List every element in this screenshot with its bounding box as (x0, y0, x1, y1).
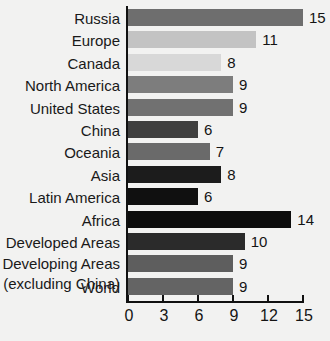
x-axis-tick (232, 295, 234, 303)
x-axis-tick (162, 295, 164, 303)
bar-value-label: 6 (204, 121, 212, 138)
x-axis-tick-label: 9 (219, 307, 249, 325)
x-axis-tick (302, 295, 304, 303)
bar (128, 9, 303, 26)
plot-area: 1511899678614109903691215 (0, 0, 330, 341)
bar (128, 255, 233, 272)
bar-value-label: 15 (309, 9, 326, 26)
bar (128, 31, 256, 48)
bar (128, 278, 233, 295)
bar-value-label: 7 (216, 143, 224, 160)
bar-value-label: 8 (227, 166, 235, 183)
x-axis-tick-label: 12 (254, 307, 284, 325)
bar-value-label: 10 (251, 233, 268, 250)
bar-value-label: 9 (239, 99, 247, 116)
bar-value-label: 9 (239, 76, 247, 93)
x-axis-tick-label: 15 (289, 307, 319, 325)
x-axis-tick-label: 6 (184, 307, 214, 325)
bar (128, 121, 198, 138)
bar (128, 211, 291, 228)
bar (128, 188, 198, 205)
x-axis-tick-label: 3 (149, 307, 179, 325)
bar-chart: RussiaEuropeCanadaNorth AmericaUnited St… (0, 0, 330, 341)
bar (128, 54, 221, 71)
x-axis-tick-label: 0 (114, 307, 144, 325)
bar-value-label: 14 (297, 211, 314, 228)
x-axis-line (126, 301, 304, 303)
bar-value-label: 8 (227, 54, 235, 71)
bar (128, 99, 233, 116)
bar (128, 143, 210, 160)
bar-value-label: 9 (239, 278, 247, 295)
bar-value-label: 11 (262, 31, 278, 48)
x-axis-tick (267, 295, 269, 303)
bar-value-label: 9 (239, 255, 247, 272)
x-axis-tick (127, 295, 129, 303)
bar (128, 76, 233, 93)
x-axis-tick (197, 295, 199, 303)
bar (128, 233, 245, 250)
bar-value-label: 6 (204, 188, 212, 205)
bar (128, 166, 221, 183)
